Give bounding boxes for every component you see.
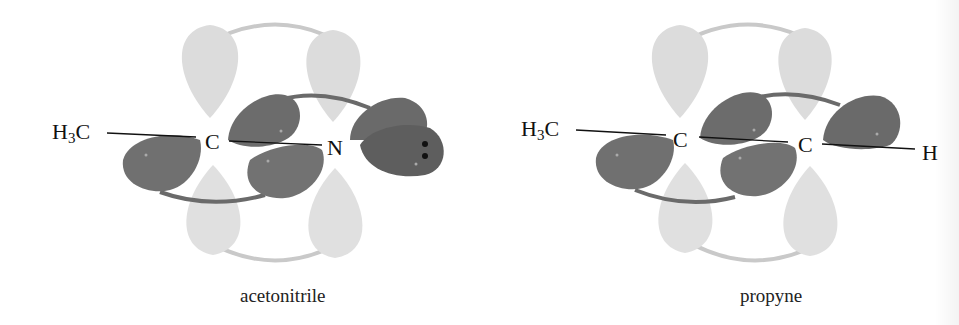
atom-methyl: H3C <box>52 121 90 146</box>
atom-carbon-2: C <box>798 134 813 156</box>
propyne-orbital-diagram <box>480 0 959 325</box>
pi-lobe-top-c1 <box>652 25 708 118</box>
caption-propyne: propyne <box>740 285 802 307</box>
atom-methyl: H3C <box>521 118 559 143</box>
atom-nitrogen: N <box>327 137 343 159</box>
acetonitrile-orbital-diagram <box>0 0 480 325</box>
pi-lobe-bottom-c1 <box>658 163 712 253</box>
pi-lobe-top-c <box>182 25 238 118</box>
pi-lobe-lower-cn <box>247 145 323 198</box>
pi-lobe-bottom-c2 <box>783 166 837 256</box>
pi-lobe-upper-cn <box>228 94 300 147</box>
pi-lobe-top-n <box>306 30 360 122</box>
pi-lobe-left-c1 <box>596 135 674 190</box>
bond-ch3-c1 <box>576 130 666 135</box>
atom-carbon: C <box>205 131 220 153</box>
atom-hydrogen: H <box>922 142 938 164</box>
pi-lobe-bottom-n <box>308 168 362 258</box>
pi-lobe-lower-cc <box>720 143 796 196</box>
atom-carbon-1: C <box>673 129 688 151</box>
bond-ch3-c <box>107 133 196 137</box>
pi-lobe-top-c2 <box>778 28 831 120</box>
pi-lobe-bottom-c <box>186 165 240 255</box>
lone-pair-dot-1 <box>422 141 428 147</box>
pi-lobe-left-c <box>123 135 201 191</box>
propyne-panel: H3C C C H propyne <box>480 0 959 325</box>
caption-acetonitrile: acetonitrile <box>240 285 325 307</box>
lone-pair-dot-2 <box>422 153 428 159</box>
pi-lobe-upper-cc <box>700 92 772 145</box>
acetonitrile-panel: H3C C N acetonitrile <box>0 0 480 325</box>
